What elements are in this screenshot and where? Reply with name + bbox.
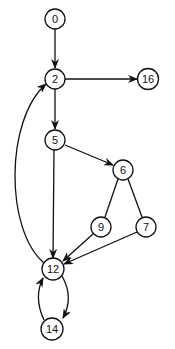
node-label: 16 — [142, 73, 154, 85]
node-16: 16 — [138, 69, 159, 90]
node-label: 7 — [143, 221, 149, 233]
node-label: 0 — [52, 13, 58, 25]
node-14: 14 — [41, 318, 63, 340]
edge-5-6 — [65, 145, 113, 165]
edge-12-2 — [15, 84, 46, 263]
node-label: 2 — [52, 73, 58, 85]
node-12: 12 — [42, 258, 64, 280]
edge-12-14 — [62, 276, 68, 318]
node-label: 14 — [46, 323, 58, 335]
edge-6-7 — [128, 179, 142, 217]
node-label: 6 — [120, 164, 126, 176]
edge-5-12 — [53, 150, 54, 258]
edge-6-9 — [105, 179, 118, 217]
node-label: 5 — [52, 134, 58, 146]
edge-14-12 — [39, 278, 44, 320]
node-label: 12 — [47, 263, 59, 275]
edge-9-12 — [63, 234, 93, 261]
node-0: 0 — [45, 9, 65, 29]
node-label: 9 — [98, 221, 104, 233]
graph-canvas: 0 2 16 5 6 9 7 12 14 — [0, 0, 175, 349]
node-2: 2 — [45, 69, 65, 89]
node-9: 9 — [91, 217, 111, 237]
node-6: 6 — [113, 160, 133, 180]
node-7: 7 — [136, 217, 156, 237]
node-5: 5 — [45, 130, 65, 150]
